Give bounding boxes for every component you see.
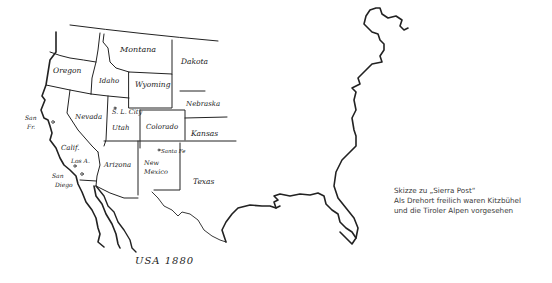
label-colorado: Colorado [146,123,178,131]
gulf-coast-east [274,193,356,244]
pacific-coast [41,32,104,247]
border-wa-or [50,52,96,62]
label-arizona: Arizona [103,161,131,169]
label-oregon: Oregon [53,66,81,75]
san-francisco-dot [52,121,55,124]
caption-line-1: Skizze zu „Sierra Post“ [394,186,521,196]
label-idaho: Idaho [98,77,119,85]
label-dakota: Dakota [180,57,208,66]
san-diego-dot [81,173,84,176]
gulf-coast-texas [222,205,280,242]
label-nevada: Nevada [74,113,102,121]
border-ca-mexico [80,180,96,181]
border-az-ca [96,152,100,186]
label-utah: Utah [112,124,129,132]
caption: Skizze zu „Sierra Post“ Als Drehort frei… [394,186,521,216]
border-ut-nv [104,96,108,146]
los-angeles-dot [74,165,76,167]
label-san-francisco-line1: San [25,114,37,121]
label-montana: Montana [119,45,156,54]
santa-fe-dot [158,149,160,151]
label-california: Calif. [61,144,80,152]
border-wyoming [129,72,172,108]
label-wyoming: Wyoming [135,80,171,89]
label-san-diego-line2: Diego [54,181,73,189]
usa-1880-sketch-map: Montana Dakota Oregon Idaho Wyoming Nebr… [0,0,552,283]
border-or-ca [46,85,91,94]
border-az-mexico [96,186,138,198]
border-id-south [91,94,129,98]
label-texas: Texas [193,177,215,186]
label-kansas: Kansas [190,129,218,138]
label-san-francisco-line2: Fr. [26,123,35,130]
northern-border [70,25,218,41]
label-new-mexico-line2: Mexico [143,168,168,176]
border-ne-ks [185,117,227,118]
caption-line-3: und die Tiroler Alpen vorgesehen [394,206,521,216]
label-nebraska: Nebraska [185,100,220,108]
label-santa-fe: Santa Fe [161,148,186,154]
state-labels: Montana Dakota Oregon Idaho Wyoming Nebr… [25,45,220,266]
label-los-angeles: Los A. [70,157,90,164]
label-san-diego-line1: San [52,172,64,179]
border-nv-ca [67,90,98,152]
rio-grande [152,192,226,242]
map-title: USA 1880 [135,255,194,266]
label-salt-lake-city: S. L. City [112,108,142,116]
label-new-mexico-line1: New [143,159,160,167]
caption-line-2: Als Drehort freilich waren Kitzbühel [394,196,521,206]
